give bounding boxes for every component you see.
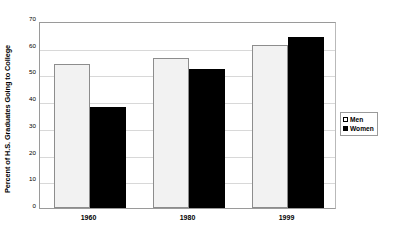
bar-women-1980 <box>189 69 225 208</box>
y-axis-tick-label: 50 <box>29 68 36 75</box>
women-swatch <box>343 126 348 131</box>
bar-group <box>238 23 337 208</box>
y-axis-tick-label: 30 <box>29 121 36 128</box>
x-axis-tick-label: 1960 <box>81 214 97 221</box>
plot-area <box>39 22 336 209</box>
y-axis-tick-labels: 010203040506070 <box>14 18 38 212</box>
y-axis-tick-label: 0 <box>33 202 36 209</box>
y-axis-tick-label: 10 <box>29 175 36 182</box>
legend-item-label: Women <box>350 125 374 132</box>
bar-women-1999 <box>288 37 324 208</box>
y-axis-tick-label: 20 <box>29 148 36 155</box>
bar-men-1999 <box>252 45 288 208</box>
y-axis-title: Percent of H.S. Graduates Going to Colle… <box>0 0 14 238</box>
bar-chart: Percent of H.S. Graduates Going to Colle… <box>0 0 393 238</box>
men-swatch <box>343 117 348 122</box>
x-axis-tick-labels: 196019801999 <box>39 214 336 228</box>
x-axis-tick-label: 1999 <box>279 214 295 221</box>
bars-layer <box>40 23 335 208</box>
legend-item-label: Men <box>350 116 363 123</box>
x-axis-tick-label: 1980 <box>180 214 196 221</box>
legend-item-men[interactable]: Men <box>343 115 374 124</box>
chart-legend: MenWomen <box>340 112 378 136</box>
y-axis-tick-label: 70 <box>29 15 36 22</box>
bar-men-1980 <box>153 58 189 208</box>
bar-women-1960 <box>90 107 126 209</box>
y-axis-tick-label: 60 <box>29 41 36 48</box>
bar-group <box>40 23 139 208</box>
y-axis-tick-label: 40 <box>29 95 36 102</box>
legend-item-women[interactable]: Women <box>343 124 374 133</box>
bar-group <box>139 23 238 208</box>
bar-men-1960 <box>54 64 90 208</box>
